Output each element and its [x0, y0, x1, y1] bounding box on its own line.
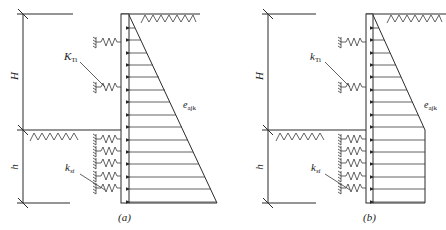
retained-ground-hatch [387, 15, 442, 23]
pressure-label-eajk: eajk [183, 99, 197, 112]
dimension-label-h: h [253, 164, 265, 170]
anchor-spring [338, 37, 366, 48]
retained-ground-hatch [141, 15, 196, 23]
spring-label-kTi: kTi [310, 50, 321, 64]
anchor-spring [93, 37, 121, 48]
earth-pressure-diagram [373, 15, 425, 203]
panel-caption-a: (a) [118, 211, 131, 224]
panel-b: H h [253, 9, 446, 224]
excavation-ground-hatch [276, 133, 324, 141]
dimension-label-H: H [253, 71, 265, 81]
dimension-label-H: H [8, 71, 20, 81]
leader-line [325, 174, 350, 190]
anchor-spring [93, 82, 121, 93]
retaining-wall [366, 14, 373, 203]
spring-label-ksi: ksi [65, 161, 75, 175]
leader-line [80, 174, 105, 190]
spring-label-ksi: ksi [311, 161, 321, 175]
anchor-spring [338, 82, 366, 93]
panel-a: H h [8, 9, 217, 224]
leader-line [325, 62, 350, 87]
pressure-arrows [130, 28, 216, 202]
panel-caption-b: (b) [363, 211, 376, 224]
pressure-label-eajk: eajk [424, 99, 438, 112]
pressure-arrows [374, 28, 425, 202]
spring-label-KTi: KTi [63, 50, 77, 64]
dimension-label-h: h [8, 164, 20, 170]
leader-line [80, 62, 105, 87]
retaining-wall [121, 14, 129, 203]
excavation-ground-hatch [30, 133, 78, 141]
retaining-wall-diagram: H h [0, 0, 446, 230]
earth-pressure-diagram [129, 15, 217, 203]
